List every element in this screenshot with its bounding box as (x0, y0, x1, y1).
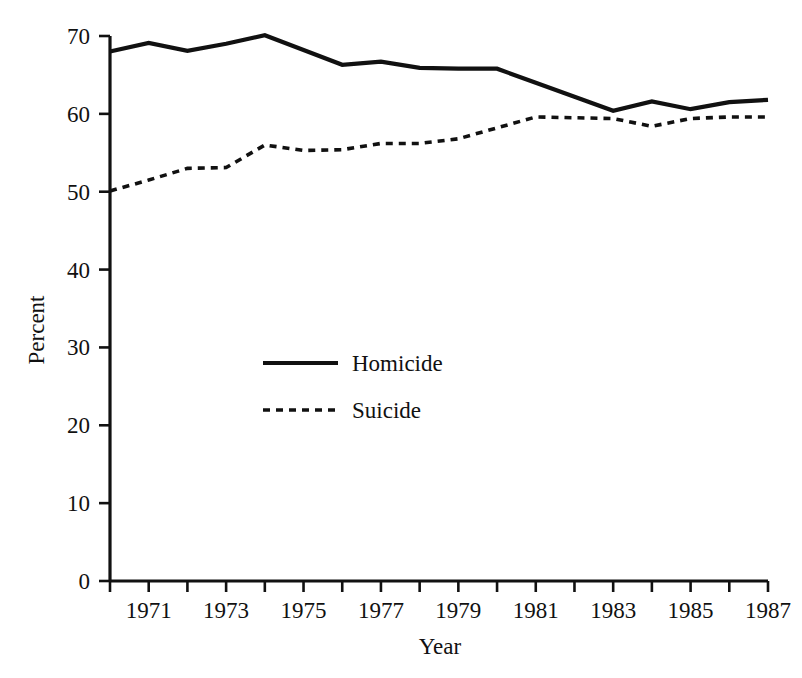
y-axis: 010203040506070 (67, 24, 110, 594)
series-line-suicide (110, 117, 768, 191)
y-axis-tick-label: 10 (67, 491, 90, 516)
x-axis-tick-label: 1971 (126, 598, 172, 623)
x-axis-tick-label: 1979 (435, 598, 481, 623)
y-axis-title: Percent (24, 295, 49, 365)
x-axis: 197119731975197719791981198319851987 (110, 581, 791, 623)
x-axis-tick-label: 1973 (203, 598, 249, 623)
x-axis-tick-label: 1981 (513, 598, 559, 623)
data-series-group (110, 35, 768, 191)
y-axis-tick-label: 0 (79, 569, 91, 594)
legend-label-suicide: Suicide (352, 398, 421, 423)
y-axis-tick-label: 30 (67, 335, 90, 360)
y-axis-tick-label: 20 (67, 413, 90, 438)
legend-label-homicide: Homicide (352, 351, 443, 376)
series-line-homicide (110, 35, 768, 111)
x-axis-tick-label: 1975 (281, 598, 327, 623)
x-axis-tick-label: 1983 (590, 598, 636, 623)
x-axis-tick-label: 1987 (745, 598, 791, 623)
chart-canvas: 010203040506070 197119731975197719791981… (0, 0, 802, 678)
chart-figure: 010203040506070 197119731975197719791981… (0, 0, 802, 678)
x-axis-tick-label: 1985 (668, 598, 714, 623)
y-axis-tick-label: 40 (67, 258, 90, 283)
y-axis-tick-label: 60 (67, 102, 90, 127)
y-axis-tick-label: 50 (67, 180, 90, 205)
y-axis-tick-label: 70 (67, 24, 90, 49)
chart-legend: HomicideSuicide (263, 351, 443, 423)
x-axis-title: Year (419, 634, 462, 659)
x-axis-tick-label: 1977 (358, 598, 404, 623)
